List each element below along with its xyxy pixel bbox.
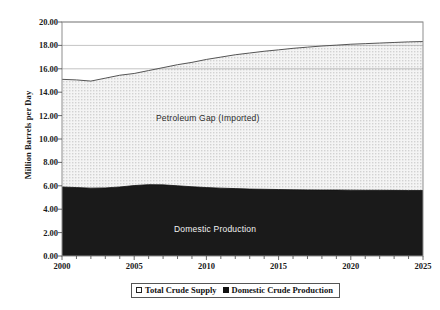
legend-item-total-crude-supply[interactable]: Total Crude Supply xyxy=(136,286,217,295)
legend-item-domestic-crude-production[interactable]: Domestic Crude Production xyxy=(223,286,333,295)
y-tick-label: 12.00 xyxy=(16,112,58,121)
y-tick-label: 0.00 xyxy=(16,252,58,261)
y-tick-label: 4.00 xyxy=(16,205,58,214)
y-tick-label: 20.00 xyxy=(16,18,58,27)
legend-label: Domestic Crude Production xyxy=(232,286,333,295)
y-tick-label: 8.00 xyxy=(16,158,58,167)
legend-label: Total Crude Supply xyxy=(145,286,217,295)
y-tick-label: 18.00 xyxy=(16,41,58,50)
y-tick-label: 2.00 xyxy=(16,229,58,238)
chart-legend: Total Crude Supply Domestic Crude Produc… xyxy=(131,283,340,298)
y-tick-label: 10.00 xyxy=(16,135,58,144)
x-tick-label: 2005 xyxy=(109,262,159,271)
x-tick-label: 2015 xyxy=(254,262,304,271)
filled-square-icon xyxy=(223,287,229,293)
y-tick-label: 14.00 xyxy=(16,88,58,97)
y-tick-label: 6.00 xyxy=(16,182,58,191)
x-tick-label: 2025 xyxy=(398,262,440,271)
x-tick-label: 2010 xyxy=(181,262,231,271)
open-square-icon xyxy=(136,287,142,293)
chart-container: Million Barrels per Day 20.0018.0016.001… xyxy=(0,0,440,310)
domestic-area-label: Domestic Production xyxy=(174,224,256,234)
x-tick-label: 2000 xyxy=(37,262,87,271)
gap-area-label: Petroleum Gap (Imported) xyxy=(156,113,260,123)
y-tick-label: 16.00 xyxy=(16,65,58,74)
x-tick-label: 2020 xyxy=(326,262,376,271)
